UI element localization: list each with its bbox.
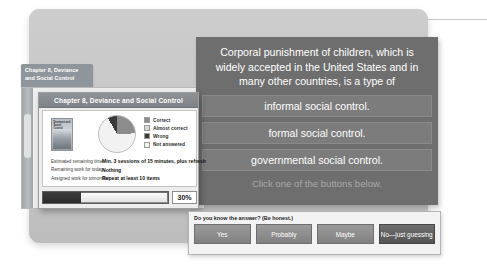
legend-swatch-icon: [144, 117, 150, 123]
progress-bar-remainder: [81, 193, 168, 202]
legend-swatch-icon: [144, 125, 150, 131]
dialog-body: Deviance and Social Control Correct Almo…: [42, 110, 197, 187]
answer-option-formal[interactable]: formal social control.: [202, 122, 432, 144]
stat-row: Assigned work for tomorrow: Repeat at le…: [51, 174, 196, 183]
screenshot-stage: Chapter 8, Devianceand Social Control Co…: [0, 0, 487, 266]
statistics-table: Estimated remaining time: Min. 3 session…: [51, 157, 196, 183]
stat-value: Nothing: [102, 167, 121, 173]
legend-swatch-icon: [144, 142, 150, 148]
legend-item-almost-correct: Almost correct: [144, 124, 196, 132]
legend-label: Wrong: [153, 134, 168, 139]
confidence-question: Do you know the answer? (Be honest.): [194, 215, 435, 221]
stat-label: Assigned work for tomorrow:: [51, 176, 102, 181]
question-stem: Corporal punishment of children, which i…: [196, 37, 438, 95]
stat-row: Remaining work for today: Nothing: [51, 166, 196, 175]
legend-swatch-icon: [144, 133, 150, 139]
confidence-button-no-just-guessing[interactable]: No—just guessing: [379, 224, 436, 244]
confidence-button-group: Yes Probably Maybe No—just guessing: [194, 224, 435, 244]
legend-label: Almost correct: [153, 126, 188, 131]
stat-label: Remaining work for today:: [51, 167, 102, 172]
background-window-tab[interactable]: Chapter 8, Devianceand Social Control: [21, 64, 93, 88]
legend-label: Correct: [153, 118, 170, 123]
stat-value: Repeat at least 10 items: [102, 175, 160, 181]
progress-dialog: Chapter 8, Deviance and Social Control D…: [38, 92, 199, 209]
stat-row: Estimated remaining time: Min. 3 session…: [51, 157, 196, 166]
progress-percent-label: 30%: [172, 191, 197, 204]
progress-row: 30%: [42, 190, 197, 205]
legend-item-not-answered: Not answered: [144, 141, 196, 149]
confidence-prompt-bar: Do you know the answer? (Be honest.) Yes…: [188, 211, 441, 255]
scrollbar-thumb[interactable]: [24, 114, 31, 158]
answer-option-informal[interactable]: informal social control.: [202, 95, 432, 117]
background-tab-label: Chapter 8, Devianceand Social Control: [25, 67, 89, 82]
stat-label: Estimated remaining time:: [51, 159, 102, 164]
progress-bar-fill: [43, 192, 81, 203]
confidence-button-maybe[interactable]: Maybe: [317, 224, 374, 244]
answer-option-governmental[interactable]: governmental social control.: [202, 149, 432, 171]
stat-value: Min. 3 sessions of 15 minutes, plus refr…: [102, 158, 206, 164]
question-slide: Corporal punishment of children, which i…: [196, 37, 438, 205]
pie-chart-legend: Correct Almost correct Wrong Not answere…: [144, 116, 196, 149]
dialog-titlebar[interactable]: Chapter 8, Deviance and Social Control: [39, 93, 198, 108]
dialog-title: Chapter 8, Deviance and Social Control: [54, 97, 183, 104]
confidence-button-probably[interactable]: Probably: [256, 224, 313, 244]
confidence-button-yes[interactable]: Yes: [194, 224, 251, 244]
legend-item-wrong: Wrong: [144, 132, 196, 140]
slide-hint-text: Click one of the buttons below.: [196, 176, 438, 189]
legend-item-correct: Correct: [144, 116, 196, 124]
progress-bar: [42, 191, 169, 204]
vertical-scrollbar[interactable]: [22, 88, 33, 208]
mastery-pie-chart: [98, 115, 136, 153]
legend-label: Not answered: [153, 142, 185, 147]
book-cover-image: [53, 129, 71, 149]
book-cover-thumbnail: Deviance and Social Control: [51, 118, 73, 151]
